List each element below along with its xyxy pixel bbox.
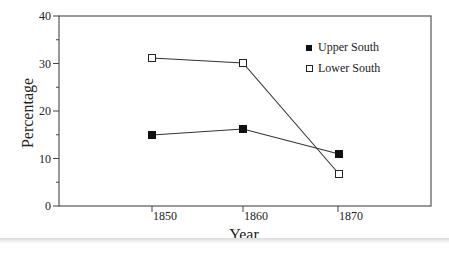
y-axis xyxy=(53,16,59,206)
series-line-lower-south xyxy=(152,58,339,174)
legend-marker-lower-south xyxy=(307,66,313,72)
y-tick-label: 40 xyxy=(39,9,51,23)
page-edge-shadow xyxy=(0,238,449,244)
x-tick-label: 1870 xyxy=(339,209,363,223)
y-tick-label: 10 xyxy=(39,152,51,166)
x-tick-label: 1850 xyxy=(153,209,177,223)
y-tick-label: 0 xyxy=(45,199,51,213)
x-tick-label: 1860 xyxy=(244,209,268,223)
markers-upper-south xyxy=(149,126,343,158)
legend: Upper South Lower South xyxy=(306,40,380,75)
legend-label-upper-south: Upper South xyxy=(318,40,379,54)
y-tick-label: 20 xyxy=(39,104,51,118)
y-tick-label: 30 xyxy=(39,57,51,71)
legend-label-lower-south: Lower South xyxy=(318,61,380,75)
y-axis-title: Percentage xyxy=(19,78,37,148)
markers-lower-south xyxy=(149,55,343,178)
line-chart: 0 10 20 30 40 1850 1860 1870 Year Percen… xyxy=(0,0,449,253)
legend-marker-upper-south xyxy=(306,45,312,51)
